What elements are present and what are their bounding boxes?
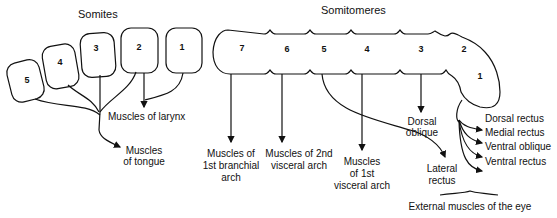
label-visceral2-2: visceral arch — [264, 160, 334, 172]
label-tongue-2: of tongue — [119, 156, 169, 168]
label-dorsal-rectus: Dorsal rectus — [485, 113, 544, 125]
somite-number: 1 — [175, 42, 189, 52]
label-visceral1-1: Muscles — [332, 156, 392, 168]
label-branchial-3: arch — [196, 172, 266, 184]
label-medial-rectus: Medial rectus — [485, 127, 544, 139]
somitomere-number: 5 — [317, 44, 331, 54]
diagram-lines — [0, 0, 557, 218]
label-ventral-oblique: Ventral oblique — [485, 141, 551, 153]
somite-number: 4 — [53, 57, 67, 67]
label-lateral-rectus-2: rectus — [422, 175, 462, 187]
label-dorsal-oblique-2: oblique — [402, 127, 442, 139]
label-branchial-2: 1st branchial — [196, 160, 266, 172]
label-eye-group: External muscles of the eye — [405, 201, 535, 213]
somitomere-chain — [213, 30, 500, 108]
label-visceral2-1: Muscles of 2nd — [264, 148, 334, 160]
brace — [440, 191, 498, 195]
somite-3 — [80, 32, 117, 78]
somite-number: 5 — [20, 75, 34, 85]
somites-title: Somites — [78, 8, 118, 20]
somitomere-number: 1 — [473, 71, 487, 81]
somitomeres-title: Somitomeres — [321, 4, 386, 16]
somitomere-number: 6 — [280, 44, 294, 54]
label-visceral1-3: visceral arch — [332, 180, 392, 192]
label-branchial-1: Muscles of — [196, 148, 266, 160]
label-visceral1-2: of 1st — [332, 168, 392, 180]
label-ventral-rectus: Ventral rectus — [485, 156, 546, 168]
label-larynx: Muscles of larynx — [108, 111, 185, 123]
label-lateral-rectus-1: Lateral — [422, 163, 462, 175]
somite-number: 3 — [89, 43, 103, 53]
somite-number: 2 — [132, 42, 146, 52]
somitomere-number: 4 — [360, 44, 374, 54]
somitomere-number: 3 — [414, 44, 428, 54]
somitomere-number: 2 — [457, 44, 471, 54]
somitomere-number: 7 — [235, 43, 249, 53]
